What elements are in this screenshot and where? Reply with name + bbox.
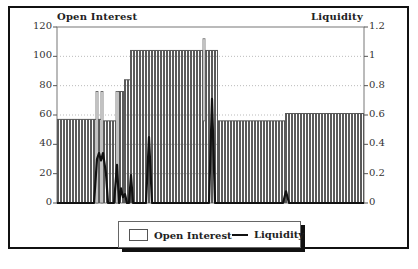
legend-label-open-interest: Open Interest bbox=[154, 230, 232, 241]
legend-label-liquidity: Liquidity bbox=[254, 229, 304, 240]
legend-swatch-line-icon bbox=[232, 234, 248, 236]
legend-swatch-bar-icon bbox=[129, 229, 148, 241]
legend: Open Interest Liquidity bbox=[118, 221, 301, 248]
legend-item-liquidity: Liquidity bbox=[232, 229, 304, 240]
legend-item-open-interest: Open Interest bbox=[129, 229, 232, 241]
